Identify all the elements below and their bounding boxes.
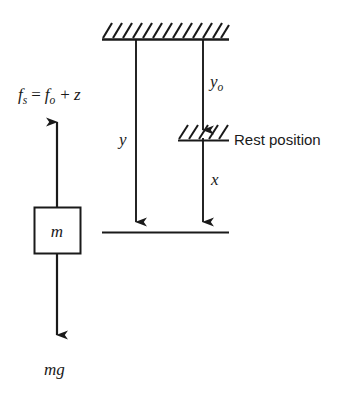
- spring-force-f-subscript: s: [23, 94, 28, 107]
- spring-force-label: fs=fo+z: [18, 85, 81, 107]
- y0-label-symbol: y: [208, 72, 218, 91]
- physics-diagram: fs=fo+z m mg y yo x Rest position: [0, 0, 359, 403]
- rest-position-label: Rest position: [234, 131, 321, 148]
- weight-label: mg: [44, 360, 65, 379]
- spring-force-equals: =: [31, 85, 41, 104]
- y0-label: yo: [208, 72, 224, 94]
- ceiling-hatching: [103, 23, 229, 38]
- y0-label-subscript: o: [218, 81, 224, 94]
- spring-force-z-symbol: z: [73, 85, 81, 104]
- spring-force-f0-subscript: o: [50, 94, 56, 107]
- y-label: y: [117, 130, 127, 149]
- mass-label: m: [51, 222, 63, 241]
- x-label: x: [210, 170, 219, 189]
- diagram-canvas: fs=fo+z m mg y yo x Rest position: [0, 0, 359, 403]
- spring-force-plus: +: [60, 85, 70, 104]
- ceiling-support: [102, 23, 229, 40]
